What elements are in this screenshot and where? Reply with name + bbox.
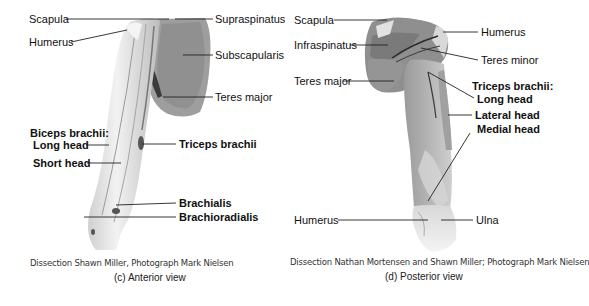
- label-triceps-brachii-posterior: Triceps brachii:: [472, 80, 553, 92]
- label-triceps-long-head: Long head: [477, 93, 533, 105]
- label-brachioradialis: Brachioradialis: [179, 211, 258, 223]
- credit-posterior: Dissection Nathan Mortensen and Shawn Mi…: [290, 257, 589, 267]
- credit-anterior: Dissection Shawn Miller, Photograph Mark…: [30, 258, 233, 268]
- label-teres-major-posterior: Teres major: [294, 75, 351, 87]
- label-brachialis: Brachialis: [179, 197, 232, 209]
- label-scapula-anterior: Scapula: [29, 13, 69, 25]
- label-ulna: Ulna: [476, 214, 499, 226]
- caption-anterior: (c) Anterior view: [114, 272, 186, 283]
- label-triceps-lateral-head: Lateral head: [475, 109, 540, 121]
- caption-posterior: (d) Posterior view: [385, 271, 463, 282]
- label-biceps-long-head: Long head: [33, 139, 89, 151]
- label-infraspinatus: Infraspinatus: [294, 39, 357, 51]
- label-humerus-posterior-bottom: Humerus: [294, 214, 339, 226]
- label-supraspinatus: Supraspinatus: [215, 13, 285, 25]
- label-biceps-short-head: Short head: [33, 157, 90, 169]
- label-humerus-posterior-top: Humerus: [481, 26, 526, 38]
- label-teres-minor: Teres minor: [481, 54, 538, 66]
- label-subscapularis: Subscapularis: [215, 49, 284, 61]
- label-biceps-brachii: Biceps brachii:: [30, 127, 109, 139]
- label-triceps-brachii-anterior: Triceps brachii: [179, 138, 257, 150]
- label-teres-major-anterior: Teres major: [215, 91, 272, 103]
- label-triceps-medial-head: Medial head: [477, 123, 540, 135]
- label-scapula-posterior: Scapula: [294, 14, 334, 26]
- label-humerus-anterior: Humerus: [29, 36, 74, 48]
